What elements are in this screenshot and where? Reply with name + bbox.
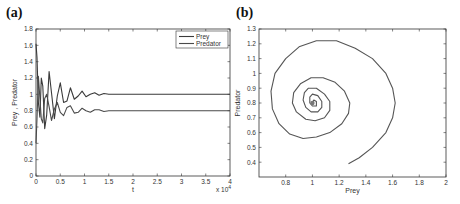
x-tick-label: 3.5	[201, 178, 210, 185]
series-line-prey	[36, 44, 230, 129]
y-tick-label: 1.2	[24, 74, 33, 81]
x-tick-label: 3	[180, 178, 184, 185]
y-tick-label: 1.2	[247, 40, 256, 47]
y-tick-label: 1.6	[24, 42, 33, 49]
plot-frame	[259, 29, 446, 177]
x-tick-label: 2.5	[153, 178, 162, 185]
y-tick-label: 1	[29, 91, 33, 98]
x-tick-label: 1.5	[104, 178, 113, 185]
x-tick-label: 0.5	[56, 178, 65, 185]
series-line-predator	[36, 76, 230, 143]
figure-canvas: 00.511.522.533.5400.20.40.60.811.21.41.6…	[0, 0, 460, 204]
x-tick-label: 1.6	[388, 179, 397, 186]
equilibrium-point	[310, 101, 314, 105]
x-tick-label: 1	[83, 178, 87, 185]
y-tick-label: 0.8	[247, 99, 256, 106]
y-tick-label: 0.6	[24, 123, 33, 130]
y-tick-label: 1.8	[24, 25, 33, 32]
y-tick-label: 0	[29, 172, 33, 179]
x-tick-label: 0	[34, 178, 38, 185]
x-tick-label: 2	[444, 179, 448, 186]
legend-entry: Predator	[196, 40, 222, 47]
y-tick-label: 1.4	[24, 58, 33, 65]
legend: PreyPredator	[176, 31, 228, 48]
plot-frame	[36, 29, 230, 176]
y-tick-label: 0.4	[247, 159, 256, 166]
y-tick-label: 0.4	[24, 140, 33, 147]
y-tick-label: 0.2	[24, 156, 33, 163]
x-tick-label: 1.8	[415, 179, 424, 186]
x-tick-label: 2	[131, 178, 135, 185]
y-tick-label: 0.7	[247, 114, 256, 121]
series-line-phase	[271, 41, 395, 164]
phase-portrait-chart: 0.811.21.41.61.820.40.50.60.70.80.911.11…	[234, 25, 448, 195]
x-axis-label: Prey	[345, 187, 360, 195]
x-tick-label: 1.2	[335, 179, 344, 186]
y-tick-label: 0.9	[247, 85, 256, 92]
y-tick-label: 0.8	[24, 107, 33, 114]
x-tick-label: 1	[311, 179, 315, 186]
y-tick-label: 0.6	[247, 129, 256, 136]
x-multiplier-label: x 104	[216, 184, 231, 193]
y-tick-label: 1.1	[247, 55, 256, 62]
y-axis-label: Predator	[234, 89, 241, 117]
x-tick-label: 1.4	[361, 179, 370, 186]
x-tick-label: 0.8	[281, 179, 290, 186]
y-tick-label: 1	[252, 70, 256, 77]
x-axis-label: t	[132, 186, 134, 193]
y-tick-label: 0.5	[247, 144, 256, 151]
y-tick-label: 1.3	[247, 25, 256, 32]
y-axis-label: Prey , Predator	[11, 78, 19, 126]
time-series-chart: 00.511.522.533.5400.20.40.60.811.21.41.6…	[11, 25, 232, 193]
